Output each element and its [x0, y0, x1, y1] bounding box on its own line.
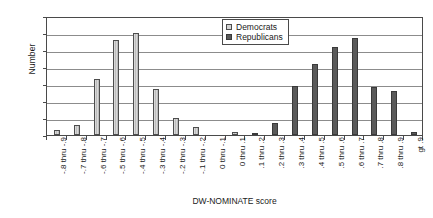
bar-rep [352, 38, 358, 135]
x-axis-category-labels: -.8 thru -.9-.7 thru -.8-.6 thru -.7-.5 … [46, 139, 423, 191]
y-axis-tick-mark [43, 68, 46, 69]
legend-label: Republicans [236, 33, 283, 42]
bar-rep [292, 86, 298, 135]
y-axis-tick-mark [43, 17, 46, 18]
bar-dem [133, 33, 139, 135]
y-axis-tick-mark [43, 85, 46, 86]
y-axis-title: Number [27, 29, 37, 89]
bar-dem [94, 79, 100, 135]
x-axis-tick-label: .2 thru .3 [278, 137, 286, 189]
bar-dem [193, 127, 199, 136]
bar-slot [107, 18, 127, 135]
bar-dem [232, 132, 238, 135]
bar-slot [325, 18, 345, 135]
bar-slot [364, 18, 384, 135]
x-axis-tick-label: .8 thru .9 [397, 137, 405, 189]
bar-slot [47, 18, 67, 135]
dw-nominate-histogram: Number 706050403020100 -.8 thru -.9-.7 t… [0, 0, 433, 218]
bar-dem [153, 89, 159, 135]
legend-swatch-rep-icon [226, 34, 232, 40]
x-axis-tick-label: 0 thru .1 [239, 137, 247, 189]
x-axis-tick-label: .7 thru .8 [377, 137, 385, 189]
bar-slot [345, 18, 365, 135]
x-axis-tick-label: .6 thru .7 [358, 137, 366, 189]
bar-dem [54, 130, 60, 135]
bar-slot [146, 18, 166, 135]
legend-item-dem: Democrats [226, 22, 283, 32]
x-axis-tick-label: -.2 thru -.3 [179, 137, 187, 189]
x-axis-title: DW-NOMINATE score [46, 196, 423, 206]
bar-slot [166, 18, 186, 135]
bar-slot [126, 18, 146, 135]
bar-slot [186, 18, 206, 135]
x-axis-tick-label: 0 thru -.1 [219, 137, 227, 189]
legend-label: Democrats [236, 23, 277, 32]
x-axis-tick-label: -.1 thru -.2 [199, 137, 207, 189]
bar-rep [252, 133, 258, 135]
y-axis-tick-mark [43, 51, 46, 52]
x-axis-tick-label: .3 thru .4 [298, 137, 306, 189]
bar-rep [332, 47, 338, 135]
y-axis-tick-mark [43, 102, 46, 103]
chart-legend: DemocratsRepublicans [222, 19, 289, 45]
bar-slot [87, 18, 107, 135]
bar-rep [371, 87, 377, 135]
x-axis-tick-label: gt .9 [417, 137, 425, 189]
x-axis-tick-label: .4 thru .5 [318, 137, 326, 189]
x-axis-tick-label: -.8 thru -.9 [60, 137, 68, 189]
bar-rep [411, 132, 417, 135]
bar-slot [305, 18, 325, 135]
x-axis-tick-label: -.5 thru -.6 [119, 137, 127, 189]
x-axis-tick-label: .5 thru .6 [338, 137, 346, 189]
bar-rep [272, 123, 278, 135]
bar-slot [404, 18, 424, 135]
bar-rep [312, 64, 318, 135]
y-axis-tick-mark [43, 34, 46, 35]
legend-swatch-dem-icon [226, 24, 232, 30]
x-axis-tick-label: -.7 thru -.8 [80, 137, 88, 189]
x-axis-tick-label: -.6 thru -.7 [100, 137, 108, 189]
y-axis-tick-mark [43, 119, 46, 120]
bar-dem [113, 40, 119, 135]
legend-item-rep: Republicans [226, 32, 283, 42]
bar-dem [173, 118, 179, 135]
bar-dem [74, 125, 80, 135]
x-axis-tick-label: .1 thru .2 [258, 137, 266, 189]
x-axis-tick-label: -.3 thru -.4 [159, 137, 167, 189]
bar-slot [384, 18, 404, 135]
bar-slot [67, 18, 87, 135]
bar-rep [391, 91, 397, 135]
x-axis-tick-label: -.4 thru -.5 [139, 137, 147, 189]
